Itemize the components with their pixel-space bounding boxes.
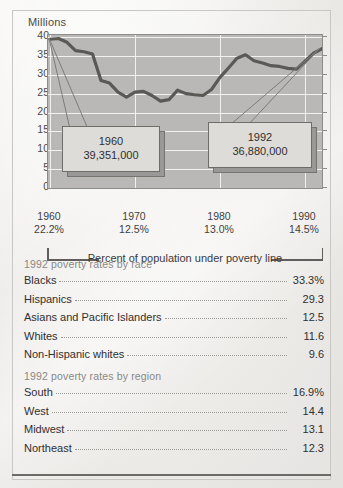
x-tick-year: 1970 — [104, 210, 164, 222]
y-tick-label: 0 — [25, 180, 49, 192]
row-value: 29.3 — [290, 293, 324, 305]
dot-leader — [75, 299, 287, 301]
table-row: Northeast12.3 — [24, 442, 324, 454]
poverty-population-chart: Millions 0510152025303540 — [22, 16, 328, 252]
leader-lines-1992 — [230, 48, 320, 125]
x-axis-group-1970: 197012.5% — [104, 210, 164, 235]
x-tick-year: 1960 — [19, 210, 79, 222]
row-value: 16.9% — [290, 386, 324, 398]
x-axis-group-1960: 196022.2% — [19, 210, 79, 235]
table-row: Midwest13.1 — [24, 423, 324, 435]
y-tick-mark — [323, 55, 327, 56]
dot-leader — [67, 429, 287, 431]
row-label: Midwest — [24, 423, 64, 435]
table-row: Asians and Pacific Islanders12.5 — [24, 311, 324, 323]
row-value: 13.1 — [290, 423, 324, 435]
row-label: Northeast — [24, 442, 72, 454]
table-row: Hispanics29.3 — [24, 293, 324, 305]
y-tick-mark — [323, 187, 327, 188]
dot-leader — [75, 448, 287, 450]
row-label: Blacks — [24, 274, 56, 286]
x-tick-percent: 13.0% — [189, 223, 249, 235]
callout-1960-year: 1960 — [99, 135, 123, 149]
y-tick-mark — [323, 74, 327, 75]
row-value: 11.6 — [290, 330, 324, 342]
row-label: West — [24, 405, 49, 417]
callout-1992-face: 1992 36,880,000 — [208, 122, 312, 168]
x-tick-percent: 14.5% — [274, 223, 334, 235]
table-rows: South16.9%West14.4Midwest13.1Northeast12… — [24, 386, 324, 454]
y-tick-label: 10 — [25, 142, 49, 154]
y-tick-label: 30 — [25, 67, 49, 79]
x-tick-year: 1990 — [274, 210, 334, 222]
callout-1992-value: 36,880,000 — [232, 145, 287, 159]
x-tick-percent: 12.5% — [104, 223, 164, 235]
x-tick-percent: 22.2% — [19, 223, 79, 235]
x-axis-group-1990: 199014.5% — [274, 210, 334, 235]
poverty-rate-tables: 1992 poverty rates by raceBlacks33.3%His… — [24, 258, 324, 464]
table-row: West14.4 — [24, 405, 324, 417]
callout-1960: 1960 39,351,000 — [62, 126, 160, 172]
callout-1992-year: 1992 — [248, 131, 272, 145]
y-tick-mark — [323, 149, 327, 150]
row-label: Hispanics — [24, 293, 72, 305]
table-row: Blacks33.3% — [24, 274, 324, 286]
dot-leader — [56, 392, 287, 394]
y-tick-mark — [323, 130, 327, 131]
y-tick-label: 35 — [25, 48, 49, 60]
callout-1992: 1992 36,880,000 — [208, 122, 312, 168]
y-tick-mark — [323, 93, 327, 94]
table-row: Non-Hispanic whites9.6 — [24, 348, 324, 360]
dot-leader — [127, 354, 287, 356]
y-axis-title: Millions — [28, 16, 66, 28]
bottom-rule — [12, 474, 331, 476]
table-row: Whites11.6 — [24, 330, 324, 342]
gridline-horizontal — [48, 188, 322, 189]
row-label: Non-Hispanic whites — [24, 348, 124, 360]
dot-leader — [59, 280, 287, 282]
y-tick-label: 40 — [25, 29, 49, 41]
x-axis-group-1980: 198013.0% — [189, 210, 249, 235]
y-tick-label: 25 — [25, 86, 49, 98]
row-label: Whites — [24, 330, 58, 342]
row-label: Asians and Pacific Islanders — [24, 311, 162, 323]
y-tick-label: 20 — [25, 105, 49, 117]
row-value: 33.3% — [290, 274, 324, 286]
y-tick-mark — [323, 36, 327, 37]
dot-leader — [61, 336, 287, 338]
y-tick-mark — [323, 112, 327, 113]
table-rows: Blacks33.3%Hispanics29.3Asians and Pacif… — [24, 274, 324, 360]
dot-leader — [52, 411, 287, 413]
row-value: 12.5 — [290, 311, 324, 323]
plot-area-wrapper: 0510152025303540 1960 — [22, 34, 328, 200]
row-value: 9.6 — [290, 348, 324, 360]
table-heading: 1992 poverty rates by race — [24, 258, 324, 270]
y-tick-label: 15 — [25, 123, 49, 135]
table-row: South16.9% — [24, 386, 324, 398]
table-heading: 1992 poverty rates by region — [24, 370, 324, 382]
row-label: South — [24, 386, 53, 398]
callout-1960-face: 1960 39,351,000 — [62, 126, 160, 172]
callout-1960-value: 39,351,000 — [83, 149, 138, 163]
x-axis-labels: 196022.2%197012.5%198013.0%199014.5% — [47, 210, 323, 244]
y-tick-label: 5 — [25, 161, 49, 173]
x-tick-year: 1980 — [189, 210, 249, 222]
y-tick-mark — [323, 168, 327, 169]
row-value: 12.3 — [290, 442, 324, 454]
dot-leader — [165, 317, 287, 319]
row-value: 14.4 — [290, 405, 324, 417]
